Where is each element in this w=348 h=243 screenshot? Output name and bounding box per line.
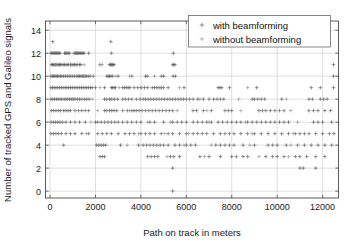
grid-lines (46, 21, 339, 198)
series-with-beamforming (49, 40, 336, 193)
legend-label-with-beamforming: with beamforming (212, 20, 288, 31)
y-tick-label: 0 (36, 187, 41, 197)
y-axis-title: Number of tracked GPS and Galileo signal… (2, 18, 13, 202)
x-axis-title: Path on track in meters (143, 227, 241, 238)
y-tick-label: 6 (36, 118, 41, 128)
x-tick-label: 0 (48, 202, 53, 212)
y-tick-label: 8 (36, 95, 41, 105)
legend-label-without-beamforming: without beamforming (212, 34, 301, 45)
x-tick-label: 4000 (131, 202, 151, 212)
x-tick-label: 12000 (310, 202, 335, 212)
y-tick-label: 14 (31, 26, 41, 36)
axes-frame (46, 21, 339, 198)
x-tick-label: 2000 (85, 202, 105, 212)
x-tick-label: 10000 (265, 202, 290, 212)
y-tick-label: 4 (36, 141, 41, 151)
legend: with beamforming without beamforming (189, 16, 331, 48)
y-tick-label: 12 (31, 49, 41, 59)
x-tick-label: 8000 (222, 202, 242, 212)
y-tick-label: 2 (36, 164, 41, 174)
x-tick-labels: 020004000600080001000012000 (48, 202, 336, 212)
x-tick-label: 6000 (176, 202, 196, 212)
y-tick-label: 10 (31, 72, 41, 82)
tick-marks (46, 21, 339, 198)
y-tick-labels: 02468101214 (31, 26, 41, 197)
scatter-plot-svg: 020004000600080001000012000 02468101214 … (0, 0, 348, 243)
data-points-layer (49, 40, 336, 193)
chart-figure: 020004000600080001000012000 02468101214 … (0, 0, 348, 243)
